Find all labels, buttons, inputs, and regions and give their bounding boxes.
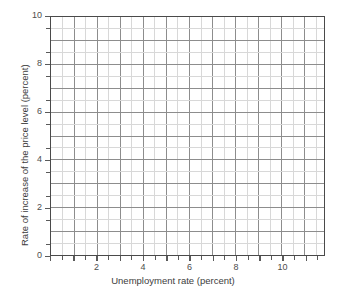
y-tick-mark (45, 160, 50, 161)
x-minor-tick-mark (131, 256, 132, 260)
x-tick-mark (96, 256, 97, 261)
plot-area (50, 16, 325, 256)
y-minor-tick-mark (46, 28, 50, 29)
x-minor-tick-mark (62, 256, 63, 260)
y-minor-tick-mark (46, 124, 50, 125)
x-axis-title: Unemployment rate (percent) (0, 275, 346, 286)
y-tick-label: 0 (18, 251, 42, 260)
x-tick-mark (306, 256, 307, 261)
x-tick-mark (259, 256, 260, 261)
x-tick-mark (282, 256, 283, 261)
x-tick-label: 2 (83, 263, 109, 272)
y-minor-tick-mark (46, 220, 50, 221)
x-tick-mark (143, 256, 144, 261)
y-minor-tick-mark (46, 172, 50, 173)
y-tick-mark (45, 64, 50, 65)
x-minor-tick-mark (294, 256, 295, 260)
x-minor-tick-mark (155, 256, 156, 260)
x-tick-label: 6 (176, 263, 202, 272)
x-tick-label: 4 (130, 263, 156, 272)
x-minor-tick-mark (201, 256, 202, 260)
x-tick-mark (213, 256, 214, 261)
x-tick-mark (189, 256, 190, 261)
gridlines (51, 17, 324, 255)
x-tick-mark (73, 256, 74, 261)
x-minor-tick-mark (178, 256, 179, 260)
x-minor-tick-mark (248, 256, 249, 260)
x-minor-tick-mark (85, 256, 86, 260)
x-tick-label: 8 (223, 263, 249, 272)
x-tick-mark (236, 256, 237, 261)
y-tick-mark (45, 16, 50, 17)
x-minor-tick-mark (108, 256, 109, 260)
x-tick-label: 10 (269, 263, 295, 272)
x-minor-tick-mark (317, 256, 318, 260)
x-tick-mark (166, 256, 167, 261)
y-tick-mark (45, 112, 50, 113)
y-minor-tick-mark (46, 196, 50, 197)
y-minor-tick-mark (46, 100, 50, 101)
y-tick-label: 10 (18, 11, 42, 20)
x-minor-tick-mark (271, 256, 272, 260)
y-minor-tick-mark (46, 148, 50, 149)
y-minor-tick-mark (46, 52, 50, 53)
y-minor-tick-mark (46, 76, 50, 77)
y-tick-mark (45, 208, 50, 209)
y-minor-tick-mark (46, 244, 50, 245)
x-tick-mark (120, 256, 121, 261)
y-axis-title: Rate of increase of the price level (per… (19, 64, 30, 246)
x-minor-tick-mark (224, 256, 225, 260)
chart-figure: 1086420 246810 Unemployment rate (percen… (0, 0, 346, 300)
x-tick-mark (50, 256, 51, 261)
